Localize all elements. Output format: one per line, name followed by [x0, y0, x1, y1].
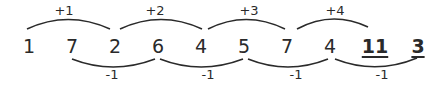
sequence-number-1: 1: [23, 36, 35, 56]
top-arc-label-2: +2: [145, 4, 164, 18]
sequence-number-6: 5: [238, 36, 250, 56]
sequence-number-4: 6: [152, 36, 164, 56]
top-arc-4: [297, 19, 368, 29]
top-arc-label-4: +4: [325, 4, 344, 18]
top-arc-3: [208, 20, 285, 30]
bottom-arc-label-3: -1: [290, 68, 303, 82]
top-arc-2: [120, 20, 202, 30]
sequence-number-3: 2: [109, 36, 121, 56]
bottom-arc-label-2: -1: [202, 68, 215, 82]
sequence-number-5: 4: [195, 36, 207, 56]
sequence-number-7: 7: [281, 36, 293, 56]
sequence-number-2: 7: [66, 36, 78, 56]
answer-number-2: 3: [411, 36, 424, 56]
number-sequence-diagram: +1 +2 +3 +4 1 7 2 6 4 5 7 4 11 3 -1 -1 -…: [0, 0, 446, 89]
bottom-arc-1: [72, 59, 155, 67]
bottom-arc-3: [248, 59, 328, 67]
bottom-arc-label-1: -1: [106, 68, 119, 82]
bottom-arc-2: [160, 59, 243, 67]
top-arc-label-1: +1: [54, 4, 73, 18]
top-arc-1: [27, 20, 110, 30]
top-arc-label-3: +3: [239, 4, 258, 18]
bottom-arc-4: [335, 58, 417, 67]
bottom-arc-label-4: -1: [376, 68, 389, 82]
sequence-number-8: 4: [324, 36, 336, 56]
answer-number-1: 11: [362, 36, 388, 56]
